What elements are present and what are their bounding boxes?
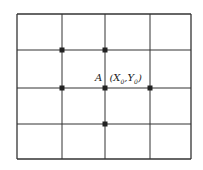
grid-point-bottom <box>103 122 108 127</box>
point-a-label: A (X0,Y0) <box>95 73 142 85</box>
grid-diagram <box>0 0 203 170</box>
grid-point-center-A <box>103 86 108 91</box>
grid-point-top-left <box>60 48 65 53</box>
coords-close: ) <box>138 72 142 83</box>
grid-point-left <box>60 86 65 91</box>
grid-point-right <box>148 86 153 91</box>
grid-point-top <box>103 48 108 53</box>
point-name: A <box>95 72 102 83</box>
